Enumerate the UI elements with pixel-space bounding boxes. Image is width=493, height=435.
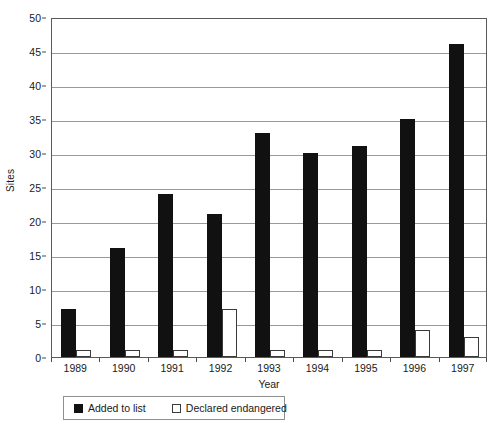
bar-added-to-list bbox=[61, 309, 76, 357]
legend-label-declared-endangered: Declared endangered bbox=[186, 402, 287, 414]
legend-swatch-outlined-square-icon bbox=[172, 404, 181, 413]
chart-legend: Added to list Declared endangered bbox=[63, 396, 285, 420]
bar-added-to-list bbox=[255, 133, 270, 357]
x-axis-title: Year bbox=[51, 378, 487, 390]
bar-added-to-list bbox=[400, 119, 415, 357]
y-axis-tick-mark bbox=[42, 154, 46, 155]
y-axis-tick-label: 25 bbox=[29, 182, 41, 194]
bar-group bbox=[400, 19, 430, 357]
bar-added-to-list bbox=[110, 248, 125, 357]
bar-added-to-list bbox=[449, 44, 464, 357]
y-axis-tick-mark bbox=[42, 86, 46, 87]
x-axis-tick-label: 1990 bbox=[112, 362, 135, 374]
bar-declared-endangered bbox=[270, 350, 285, 357]
bar-group bbox=[255, 19, 285, 357]
bar-group bbox=[158, 19, 188, 357]
y-axis-tick-label: 45 bbox=[29, 46, 41, 58]
bar-declared-endangered bbox=[367, 350, 382, 357]
bar-group bbox=[303, 19, 333, 357]
y-axis-tick-label: 20 bbox=[29, 216, 41, 228]
bars-layer bbox=[52, 19, 486, 357]
x-axis-tick-labels: 198919901991199219931994199519961997 bbox=[51, 362, 487, 378]
y-axis-tick-mark bbox=[42, 256, 46, 257]
x-axis-tick-label: 1995 bbox=[354, 362, 377, 374]
legend-item-declared-endangered: Declared endangered bbox=[172, 402, 287, 414]
bar-declared-endangered bbox=[222, 309, 237, 357]
bar-added-to-list bbox=[303, 153, 318, 357]
y-axis-tick-mark bbox=[42, 324, 46, 325]
legend-item-added-to-list: Added to list bbox=[74, 402, 146, 414]
bar-group bbox=[207, 19, 237, 357]
y-axis-tick-labels: 05101520253035404550 bbox=[18, 18, 46, 358]
y-axis-title-label: Sites bbox=[6, 168, 17, 191]
bar-group bbox=[61, 19, 91, 357]
y-axis-tick-mark bbox=[42, 188, 46, 189]
x-axis-tick-label: 1996 bbox=[403, 362, 426, 374]
y-axis-tick-mark bbox=[42, 52, 46, 53]
y-axis-tick-label: 35 bbox=[29, 114, 41, 126]
y-axis-tick-label: 30 bbox=[29, 148, 41, 160]
bar-declared-endangered bbox=[318, 350, 333, 357]
y-axis-tick-label: 15 bbox=[29, 250, 41, 262]
bar-group bbox=[352, 19, 382, 357]
bar-declared-endangered bbox=[125, 350, 140, 357]
legend-label-added-to-list: Added to list bbox=[88, 402, 146, 414]
x-axis-tick-label: 1989 bbox=[64, 362, 87, 374]
y-axis-tick-label: 10 bbox=[29, 284, 41, 296]
bar-declared-endangered bbox=[464, 337, 479, 357]
bar-added-to-list bbox=[207, 214, 222, 357]
bar-added-to-list bbox=[352, 146, 367, 357]
y-axis-tick-mark bbox=[42, 358, 46, 359]
x-axis-tick-label: 1991 bbox=[160, 362, 183, 374]
bar-declared-endangered bbox=[173, 350, 188, 357]
x-axis-tick-label: 1993 bbox=[257, 362, 280, 374]
legend-swatch-filled-square-icon bbox=[74, 404, 83, 413]
bar-group bbox=[110, 19, 140, 357]
x-axis-tick-label: 1997 bbox=[451, 362, 474, 374]
y-axis-tick-label: 0 bbox=[35, 352, 41, 364]
y-axis-tick-label: 40 bbox=[29, 80, 41, 92]
bar-declared-endangered bbox=[76, 350, 91, 357]
bar-group bbox=[449, 19, 479, 357]
y-axis-tick-mark bbox=[42, 290, 46, 291]
y-axis-tick-label: 5 bbox=[35, 318, 41, 330]
plot-area bbox=[51, 18, 487, 358]
x-axis-tick-label: 1994 bbox=[306, 362, 329, 374]
bar-chart: Sites 05101520253035404550 1989199019911… bbox=[0, 0, 493, 435]
y-axis-tick-label: 50 bbox=[29, 12, 41, 24]
bar-declared-endangered bbox=[415, 330, 430, 357]
x-axis-tick-label: 1992 bbox=[209, 362, 232, 374]
bar-added-to-list bbox=[158, 194, 173, 357]
y-axis-tick-mark bbox=[42, 120, 46, 121]
y-axis-tick-mark bbox=[42, 222, 46, 223]
y-axis-tick-mark bbox=[42, 18, 46, 19]
